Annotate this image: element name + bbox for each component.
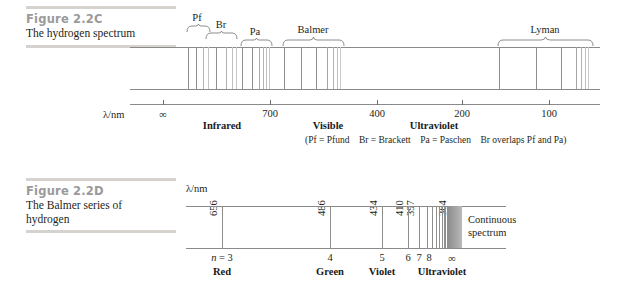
spectral-line <box>327 47 328 89</box>
spectral-line <box>536 47 537 89</box>
spectral-line <box>337 47 338 89</box>
figure-2-2c-title: The hydrogen spectrum <box>26 27 176 45</box>
spectral-line <box>252 47 253 89</box>
spectral-line <box>226 47 227 89</box>
region-label-visible: Visible <box>313 120 344 131</box>
spectral-line <box>203 47 204 89</box>
spectral-line <box>232 47 233 89</box>
axis-tick <box>462 100 463 105</box>
n-label-7: 7 <box>416 252 421 263</box>
spectral-line <box>266 47 267 89</box>
figure-2-2c-label: Figure 2.2C <box>26 9 176 27</box>
color-label-ultraviolet: Ultraviolet <box>418 266 466 277</box>
balmer-line <box>442 206 443 248</box>
balmer-line-410 <box>408 206 409 248</box>
color-label-green: Green <box>316 266 344 277</box>
n-label-4: 4 <box>327 252 332 263</box>
spectral-line <box>236 47 237 89</box>
spectral-line <box>585 47 586 89</box>
spectrum-bottom-rule <box>130 89 600 90</box>
spectral-line <box>216 47 217 89</box>
axis-tick-label: 400 <box>369 108 385 119</box>
spectral-line <box>316 47 317 89</box>
series-label-pa: Pa <box>250 26 261 37</box>
balmer-line-434 <box>382 206 383 248</box>
spectral-line <box>188 47 189 89</box>
axis-tick <box>549 100 550 105</box>
spectrum-top-rule <box>130 47 600 48</box>
brace-balmer <box>282 37 346 47</box>
spectral-line <box>284 47 285 89</box>
region-label-infrared: Infrared <box>203 120 241 131</box>
axis-label-lambda-c: λ/nm <box>103 109 124 120</box>
spectral-line <box>499 47 500 89</box>
series-label-lyman: Lyman <box>530 24 559 35</box>
figure-2-2c-note: (Pf = Pfund Br = Brackett Pa = Paschen B… <box>305 135 566 145</box>
n-label-8: 8 <box>426 252 431 263</box>
spectrum-band-d: Continuous spectrum <box>0 206 643 250</box>
spectral-line <box>301 47 302 89</box>
balmer-line-397 <box>419 206 420 248</box>
spectral-line <box>259 47 260 89</box>
axis-tick-label: 100 <box>541 108 557 119</box>
balmer-line <box>439 206 440 248</box>
continuous-spectrum-label-line1: Continuous <box>468 213 516 226</box>
spectral-line <box>242 47 243 89</box>
axis-label-lambda-d: λ/nm <box>186 183 207 194</box>
spectrum-band-c <box>0 47 643 91</box>
spectral-line <box>581 47 582 89</box>
n-label-infinity: ∞ <box>448 253 456 264</box>
n-label-6: 6 <box>405 252 410 263</box>
region-label-ultraviolet: Ultraviolet <box>410 120 458 131</box>
brace-br <box>205 31 239 40</box>
n-label-3: n = 3 <box>211 252 233 263</box>
axis-tick <box>270 100 271 105</box>
spectral-line <box>196 47 197 89</box>
series-label-br: Br <box>216 19 227 30</box>
brace-pa <box>240 38 274 47</box>
spectral-line <box>588 47 589 89</box>
axis-tick <box>163 100 164 105</box>
figure-2-2c-caption-block: Figure 2.2C The hydrogen spectrum <box>26 6 176 48</box>
spectral-line <box>269 47 270 89</box>
axis-tick-label: 700 <box>262 108 278 119</box>
spectral-line <box>340 47 341 89</box>
balmer-line-389 <box>427 206 428 248</box>
axis-tick-label: ∞ <box>159 109 167 120</box>
color-label-violet: Violet <box>369 266 395 277</box>
spectral-line <box>208 47 209 89</box>
spectral-line <box>561 47 562 89</box>
balmer-line <box>436 206 437 248</box>
series-label-pf: Pf <box>192 12 201 23</box>
continuous-spectrum-block <box>448 206 462 248</box>
continuous-spectrum-label-line2: spectrum <box>468 226 507 239</box>
figure-2-2d-label: Figure 2.2D <box>26 181 176 199</box>
axis-tick-label: 200 <box>454 108 470 119</box>
n-label-5: 5 <box>379 252 384 263</box>
spectral-line <box>263 47 264 89</box>
balmer-line <box>432 206 433 248</box>
axis-tick <box>377 100 378 105</box>
spectral-line <box>333 47 334 89</box>
color-label-red: Red <box>213 266 231 277</box>
scale-rule <box>130 104 600 105</box>
spectral-line <box>576 47 577 89</box>
balmer-line-486 <box>330 206 331 248</box>
series-label-balmer: Balmer <box>298 24 329 35</box>
brace-lyman <box>497 37 595 47</box>
spectrum-bottom-rule-d <box>186 248 506 249</box>
balmer-line-656 <box>222 206 223 248</box>
